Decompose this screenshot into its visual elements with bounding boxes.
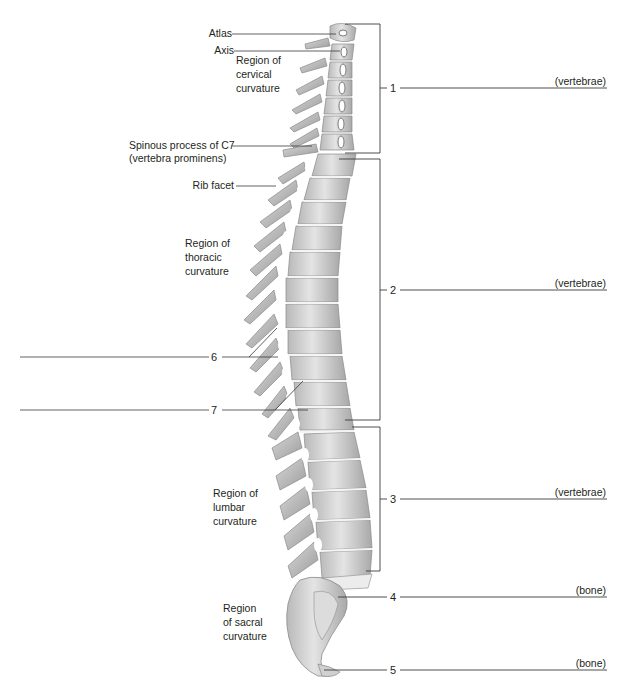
- answer-hint-4: (bone): [576, 584, 606, 596]
- callout-number-4: 4: [388, 591, 398, 603]
- callout-number-2: 2: [388, 284, 398, 296]
- answer-hint-5: (bone): [576, 657, 606, 669]
- callout-number-1: 1: [388, 82, 398, 94]
- spine-diagram: Atlas Axis Spinous process of C7 (verteb…: [0, 0, 632, 695]
- callout-number-5: 5: [388, 664, 398, 676]
- callout-number-3: 3: [388, 493, 398, 505]
- label-axis: Axis: [214, 44, 234, 57]
- label-rib-facet: Rib facet: [193, 179, 234, 192]
- callout-number-7: 7: [209, 404, 219, 416]
- vertebral-column-illustration: [0, 0, 632, 695]
- answer-hint-1: (vertebrae): [555, 75, 606, 87]
- region-sacral: Region of sacral curvature: [223, 601, 267, 643]
- region-cervical: Region of cervical curvature: [236, 53, 281, 95]
- answer-lines: [400, 88, 607, 670]
- answer-hint-3: (vertebrae): [555, 486, 606, 498]
- callout-number-6: 6: [209, 351, 219, 363]
- region-thoracic: Region of thoracic curvature: [185, 236, 230, 278]
- label-atlas: Atlas: [209, 27, 232, 40]
- label-spinous-process-c7: Spinous process of C7 (vertebra prominen…: [129, 139, 235, 165]
- region-lumbar: Region of lumbar curvature: [213, 486, 258, 528]
- answer-hint-2: (vertebrae): [555, 277, 606, 289]
